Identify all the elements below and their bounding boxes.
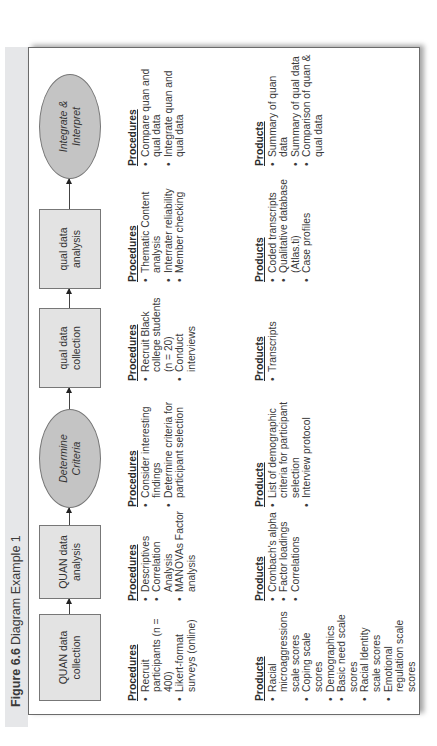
node-integrate-interpret: Integrate & Interpret bbox=[39, 74, 101, 179]
procedures-determine-criteria: Procedures Consider interesting findings… bbox=[127, 389, 186, 507]
arrow-icon bbox=[69, 179, 70, 209]
procedures-qual-collection: Procedures Recruit Black college student… bbox=[127, 289, 198, 381]
node-label: Integrate & Interpret bbox=[57, 97, 83, 157]
list-item: Coded transcripts bbox=[267, 170, 279, 282]
arrow-icon bbox=[69, 388, 70, 409]
products-heading: Products bbox=[254, 289, 266, 381]
list-item: Likert-format surveys (online) bbox=[174, 609, 197, 701]
node-qual-collection: qual data collection bbox=[39, 308, 101, 388]
arrow-icon bbox=[69, 508, 70, 525]
list-item: Recruit participants (n = 400) bbox=[140, 609, 175, 701]
node-label: Determine Criteria bbox=[57, 431, 83, 487]
procedures-heading: Procedures bbox=[127, 289, 139, 381]
list-item: Coping scale scores bbox=[301, 603, 324, 701]
list-item: Transcripts bbox=[267, 289, 279, 381]
list-item: Descriptives bbox=[140, 509, 152, 601]
procedures-heading: Procedures bbox=[127, 509, 139, 601]
list-item: Thematic Content analysis bbox=[140, 180, 163, 282]
node-label: QUAN data analysis bbox=[57, 534, 83, 590]
figure-title: Diagram Example 1 bbox=[9, 535, 23, 645]
node-quan-analysis: QUAN data analysis bbox=[39, 525, 101, 599]
list-item: Racial Identity scale scores bbox=[359, 603, 382, 701]
list-item: Compare quan and qual data bbox=[140, 58, 163, 166]
node-determine-criteria: Determine Criteria bbox=[39, 409, 101, 508]
list-item: Integrate quan and qual data bbox=[163, 58, 186, 166]
list-item: Demographics bbox=[325, 603, 337, 701]
list-item: Cronbach's alpha bbox=[267, 509, 279, 601]
procedures-heading: Procedures bbox=[127, 180, 139, 282]
node-label: qual data analysis bbox=[57, 221, 83, 277]
procedures-quan-analysis: Procedures Descriptives Correlation Anal… bbox=[127, 509, 198, 601]
list-item: Comparison of quan & qual data bbox=[301, 54, 324, 166]
list-item: MANOVAs Factor analysis bbox=[174, 509, 197, 601]
list-item: Correlations bbox=[290, 509, 302, 601]
node-quan-collection: QUAN data collection bbox=[39, 614, 101, 701]
list-item: Basic need scale scores bbox=[336, 603, 359, 701]
arrow-icon bbox=[69, 289, 70, 308]
products-heading: Products bbox=[254, 603, 266, 701]
arrow-icon bbox=[69, 599, 70, 614]
list-item: Emotional regulation scale scores bbox=[383, 603, 418, 701]
list-item: Summary of quan data bbox=[267, 54, 290, 166]
list-item: Member checking bbox=[174, 180, 186, 282]
products-integrate: Products Summary of quan data Summary of… bbox=[254, 54, 325, 166]
list-item: Summary of qual data bbox=[290, 54, 302, 166]
node-label: qual data collection bbox=[57, 320, 83, 376]
list-item: Factor loadings bbox=[278, 509, 290, 601]
list-item: Recruit Black college students (n = 20) bbox=[140, 289, 175, 381]
node-qual-analysis: qual data analysis bbox=[39, 209, 101, 289]
list-item: Determine criteria for participant selec… bbox=[163, 389, 186, 507]
products-quan-collection: Products Racial microaggressions scale s… bbox=[254, 603, 417, 701]
list-item: List of demographic criteria for partici… bbox=[267, 389, 302, 507]
products-determine-criteria: Products List of demographic criteria fo… bbox=[254, 389, 313, 507]
diagram-frame: QUAN data collection QUAN data analysis … bbox=[28, 47, 420, 715]
list-item: Racial microaggressions scale scores bbox=[267, 603, 302, 701]
list-item: Correlation Analysis bbox=[151, 509, 174, 601]
procedures-integrate: Procedures Compare quan and qual data In… bbox=[127, 58, 186, 166]
procedures-qual-analysis: Procedures Thematic Content analysis Int… bbox=[127, 180, 186, 282]
products-heading: Products bbox=[254, 54, 266, 166]
products-qual-analysis: Products Coded transcripts Qualitative d… bbox=[254, 170, 313, 282]
procedures-quan-collection: Procedures Recruit participants (n = 400… bbox=[127, 609, 198, 701]
products-quan-analysis: Products Cronbach's alpha Factor loading… bbox=[254, 509, 301, 601]
procedures-heading: Procedures bbox=[127, 389, 139, 507]
procedures-heading: Procedures bbox=[127, 609, 139, 701]
list-item: Interview protocol bbox=[301, 389, 313, 507]
products-heading: Products bbox=[254, 509, 266, 601]
list-item: Interrater reliability bbox=[163, 180, 175, 282]
list-item: Conduct interviews bbox=[174, 289, 197, 381]
procedures-heading: Procedures bbox=[127, 58, 139, 166]
products-qual-collection: Products Transcripts bbox=[254, 289, 278, 381]
list-item: Qualitative database (Atlas.ti) bbox=[278, 170, 301, 282]
products-heading: Products bbox=[254, 389, 266, 507]
node-label: QUAN data collection bbox=[57, 628, 83, 688]
figure-label: Figure 6.6 bbox=[9, 648, 23, 707]
figure-title-strip: Figure 6.6 Diagram Example 1 bbox=[5, 47, 28, 727]
list-item: Case profiles bbox=[301, 170, 313, 282]
diagram-stage: Figure 6.6 Diagram Example 1 QUAN data c… bbox=[5, 15, 430, 727]
list-item: Consider interesting findings bbox=[140, 389, 163, 507]
products-heading: Products bbox=[254, 170, 266, 282]
